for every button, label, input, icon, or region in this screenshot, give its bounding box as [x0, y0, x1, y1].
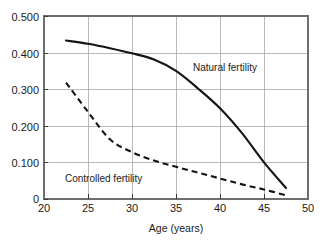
ytick-label-0100: 0.100 — [11, 157, 39, 169]
chart-svg: 0.500 0.400 0.300 0.200 0.100 0 20 25 30… — [0, 0, 332, 240]
xtick-label-45: 45 — [258, 202, 270, 214]
xtick-label-50: 50 — [302, 202, 314, 214]
ytick-label-0500: 0.500 — [11, 11, 39, 23]
series-annotation-natural-fertility: Natural fertility — [193, 62, 257, 73]
xtick-label-35: 35 — [170, 202, 182, 214]
ytick-label-0300: 0.300 — [11, 84, 39, 96]
fertility-by-age-chart: 0.500 0.400 0.300 0.200 0.100 0 20 25 30… — [0, 0, 332, 240]
xtick-label-20: 20 — [38, 202, 50, 214]
xtick-label-25: 25 — [82, 202, 94, 214]
x-axis-title: Age (years) — [149, 222, 203, 234]
ytick-label-0400: 0.400 — [11, 48, 39, 60]
ytick-label-0200: 0.200 — [11, 121, 39, 133]
xtick-label-40: 40 — [214, 202, 226, 214]
xtick-label-30: 30 — [126, 202, 138, 214]
series-annotation-controlled-fertility: Controlled fertility — [65, 173, 142, 184]
